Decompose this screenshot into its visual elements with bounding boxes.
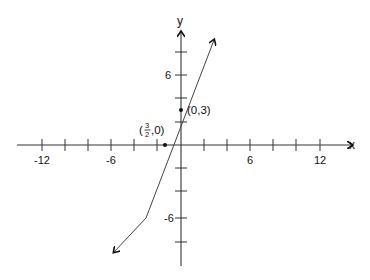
y-tick-label: 6	[165, 69, 171, 81]
x-tick-label: -12	[34, 154, 50, 166]
x-tick-label: 6	[247, 154, 253, 166]
point-x-intercept-label: ( 3 2 ,0)	[139, 121, 165, 139]
svg-text:(: (	[139, 124, 143, 136]
coordinate-plane: x y -12 -6 6 12 6 -6 (0,3) (	[0, 0, 370, 280]
x-tick-label: 12	[314, 154, 326, 166]
point-y-intercept	[179, 108, 183, 112]
point-y-intercept-label: (0,3)	[187, 104, 211, 116]
y-tick-label: -6	[164, 212, 174, 224]
svg-text:2: 2	[145, 130, 149, 139]
x-axis-label: x	[349, 138, 355, 152]
point-x-intercept	[163, 143, 167, 147]
y-axis-label: y	[177, 14, 183, 28]
svg-text:,0): ,0)	[151, 124, 165, 136]
svg-text:3: 3	[145, 121, 149, 130]
x-tick-label: -6	[106, 154, 116, 166]
graph-line-lower	[114, 218, 146, 252]
